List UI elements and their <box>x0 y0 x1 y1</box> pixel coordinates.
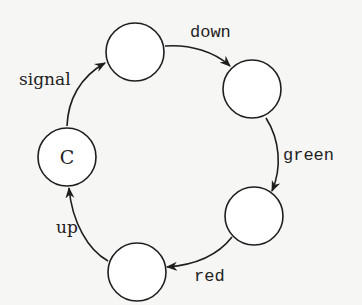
label-green: green <box>283 146 334 165</box>
node-top <box>106 23 164 81</box>
node-bottom <box>108 243 166 301</box>
edge-down <box>165 46 230 66</box>
edge-green <box>266 118 278 191</box>
node-c: C <box>38 128 96 186</box>
state-diagram: C signal down green red up <box>0 0 362 305</box>
node-right-top <box>223 60 281 118</box>
node-right-bottom <box>225 187 283 245</box>
edge-red <box>167 237 232 267</box>
label-down: down <box>190 23 231 42</box>
edge-signal <box>67 63 105 126</box>
label-up: up <box>56 217 78 237</box>
node-c-label: C <box>60 146 75 168</box>
label-signal: signal <box>19 69 71 89</box>
label-red: red <box>194 267 225 286</box>
